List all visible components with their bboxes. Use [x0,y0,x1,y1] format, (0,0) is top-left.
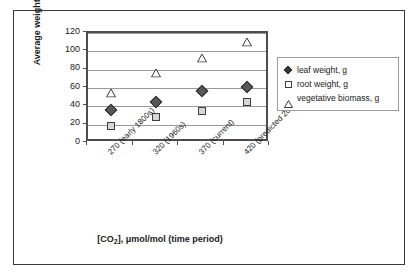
chart-figure: Average weight, g 020406080100120 270 (e… [0,0,419,275]
y-axis-tick-label: 80 [54,63,80,72]
y-axis-tick-label: 120 [54,27,80,36]
data-point-triangle [151,69,161,78]
legend-item[interactable]: root weight, g [283,77,394,91]
open-square-icon [283,78,295,90]
gridline [88,51,266,52]
y-axis-title: Average weight, g [32,0,42,92]
filled-diamond-icon [283,64,295,76]
data-point-triangle [106,88,116,97]
legend-item-label: leaf weight, g [297,65,347,75]
x-axis-title: [CO2], μmol/mol (time period) [40,234,280,244]
y-axis-tick-labels: 020406080100120 [52,31,80,141]
data-point-triangle [197,53,207,62]
data-point-square [198,107,206,115]
data-point-triangle [242,38,252,47]
y-axis-tick-label: 60 [54,82,80,91]
chart-legend: leaf weight, groot weight, gvegetative b… [277,57,399,111]
legend-item-label: vegetative biomass, g [297,93,379,103]
x-axis-title-subscript: 2 [114,238,118,245]
open-triangle-icon [283,92,295,104]
x-axis-tick-labels: 270 (early 1800s)320 (1960s)370 (current… [0,141,300,221]
y-axis-tick-label: 20 [54,118,80,127]
legend-item[interactable]: leaf weight, g [283,63,394,77]
gridline [88,33,266,34]
gridline [88,70,266,71]
y-axis-tick-label: 100 [54,45,80,54]
legend-item[interactable]: vegetative biomass, g [283,91,394,105]
data-point-square [107,122,115,130]
legend-item-label: root weight, g [297,79,348,89]
data-point-square [243,98,251,106]
y-axis-tick-label: 40 [54,100,80,109]
